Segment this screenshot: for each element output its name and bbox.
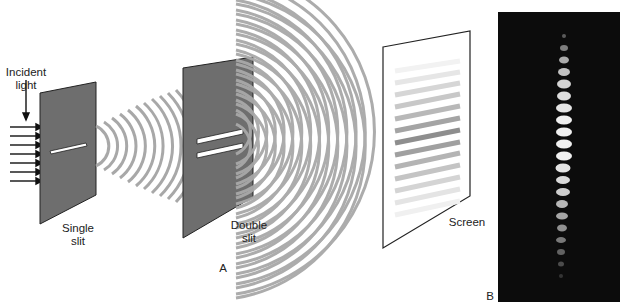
single-slit-label: Single slit (56, 222, 100, 248)
double-slit-label: Double slit (227, 219, 271, 245)
single-slit-barrier (40, 82, 96, 224)
diagram-canvas (0, 0, 626, 308)
incident-label-line2: light (2, 79, 50, 92)
single-slit-line1: Single (56, 222, 100, 235)
incident-label-line1: Incident (2, 66, 50, 79)
panel-b-label: B (484, 290, 496, 303)
double-slit-line2: slit (227, 232, 271, 245)
double-slit-waves (236, 0, 374, 298)
panel-a-label: A (216, 262, 230, 275)
incident-light-label: Incident light (2, 66, 50, 92)
single-slit-line2: slit (56, 235, 100, 248)
double-slit-line1: Double (227, 219, 271, 232)
incident-light-arrows (10, 80, 42, 184)
screen-label: Screen (442, 216, 492, 229)
